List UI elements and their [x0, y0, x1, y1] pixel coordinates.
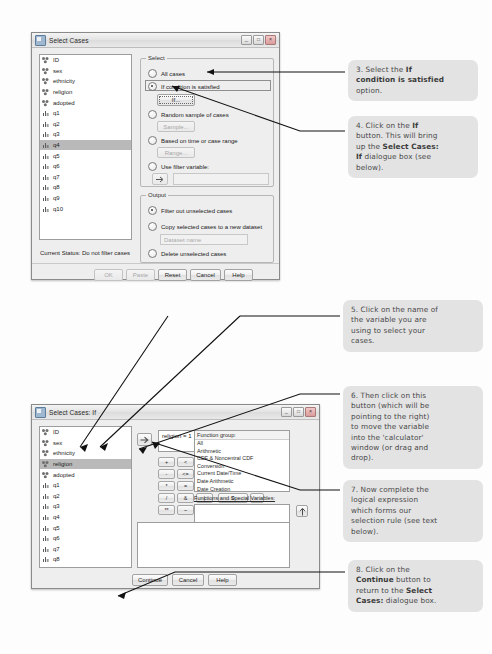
range-button[interactable]: Range... [157, 147, 195, 158]
variable-list-item[interactable]: q9 [40, 565, 131, 568]
variable-list-item[interactable]: q6 [40, 533, 131, 544]
nominal-variable-icon [42, 449, 50, 457]
radio-use-filter-variable[interactable]: Use filter variable: [148, 162, 209, 171]
dialog1-variable-list[interactable]: IDsexethnicityreligionadoptedq1q2q3q4q5q… [39, 54, 132, 240]
maximize-icon[interactable]: □ [293, 407, 304, 417]
radio-use-filter-variable-label: Use filter variable: [161, 164, 209, 170]
nominal-variable-icon [42, 99, 50, 107]
radio-delete-unselected[interactable]: Delete unselected cases [148, 249, 226, 258]
maximize-icon[interactable]: □ [253, 35, 264, 45]
radio-time-or-case-range[interactable]: Based on time or case range [148, 136, 238, 145]
help-button[interactable]: Help [224, 269, 253, 281]
key-not[interactable]: ~ [177, 505, 194, 515]
key-power[interactable]: ** [158, 505, 175, 515]
paste-button[interactable]: Paste [126, 269, 155, 281]
variable-list-item[interactable]: adopted [40, 469, 131, 480]
reset-button[interactable]: Reset [158, 269, 187, 281]
variable-list-item[interactable]: adopted [40, 97, 131, 108]
radio-indicator [148, 82, 157, 91]
move-variable-button[interactable] [137, 433, 152, 446]
radio-indicator [148, 110, 157, 119]
radio-filter-out-unselected-label: Filter out unselected cases [161, 208, 232, 214]
variable-list-item[interactable]: religion [40, 459, 131, 470]
close-icon[interactable]: × [265, 35, 276, 45]
close-icon[interactable]: × [305, 407, 316, 417]
variable-list-item[interactable]: q2 [40, 119, 131, 130]
function-group-list[interactable]: Function group: AllArithmeticCDF & Nonce… [194, 430, 290, 492]
variable-list-item[interactable]: q1 [40, 108, 131, 119]
radio-filter-out-unselected[interactable]: Filter out unselected cases [148, 206, 232, 215]
key-plus[interactable]: + [158, 457, 175, 467]
cancel-button[interactable]: Cancel [190, 269, 221, 281]
variable-list-item[interactable]: q2 [40, 491, 131, 502]
continue-button[interactable]: Continue [132, 574, 168, 586]
variable-list-item[interactable]: q3 [40, 129, 131, 140]
variable-name: q7 [53, 546, 60, 552]
function-group-item[interactable]: Arithmetic [195, 448, 289, 456]
sample-button[interactable]: Sample... [157, 121, 195, 132]
function-group-item[interactable]: CDF & Noncentral CDF [195, 455, 289, 463]
radio-if-condition[interactable]: If condition is satisfied [148, 82, 220, 91]
key-less-or-equal[interactable]: <= [177, 469, 194, 479]
minimize-icon[interactable]: _ [241, 35, 252, 45]
move-function-up-button[interactable] [296, 505, 308, 517]
key-and[interactable]: & [177, 493, 194, 503]
variable-list-item[interactable]: q7 [40, 544, 131, 555]
variable-name: q9 [53, 195, 60, 201]
radio-indicator [148, 206, 157, 215]
variable-list-item[interactable]: sex [40, 66, 131, 77]
function-group-item[interactable]: Conversion [195, 463, 289, 471]
scale-variable-icon [42, 162, 50, 170]
ok-button[interactable]: OK [94, 269, 123, 281]
variable-list-item[interactable]: q4 [40, 140, 131, 151]
variable-list-item[interactable]: religion [40, 87, 131, 98]
dialog2-titlebar[interactable]: Select Cases: If _ □ × [32, 405, 319, 420]
variable-list-item[interactable]: q8 [40, 182, 131, 193]
minimize-icon[interactable]: _ [281, 407, 292, 417]
key-multiply[interactable]: * [158, 481, 175, 491]
function-group-item[interactable]: All [195, 440, 289, 448]
radio-all-cases[interactable]: All cases [148, 69, 185, 78]
dialog1-window-controls[interactable]: _ □ × [241, 35, 276, 45]
key-divide[interactable]: / [158, 493, 175, 503]
variable-name: q4 [53, 514, 60, 520]
filter-variable-move-button[interactable] [152, 173, 168, 185]
function-group-item[interactable]: Date Creation [195, 486, 289, 492]
variable-name: q3 [53, 131, 60, 137]
variable-list-item[interactable]: ID [40, 55, 131, 66]
radio-copy-selected[interactable]: Copy selected cases to a new dataset [148, 222, 262, 231]
variable-list-item[interactable]: q8 [40, 554, 131, 565]
function-group-item[interactable]: Date Arithmetic [195, 478, 289, 486]
dialog1-titlebar[interactable]: Select Cases _ □ × [32, 33, 279, 48]
if-button[interactable]: If... [157, 94, 195, 106]
variable-list-item[interactable]: q7 [40, 172, 131, 183]
dialog2-variable-list[interactable]: IDsexethnicityreligionadoptedq1q2q3q4q5q… [39, 426, 132, 568]
help-button[interactable]: Help [208, 574, 237, 586]
select-cases-if-dialog: Select Cases: If _ □ × IDsexethnicityrel… [31, 404, 320, 589]
variable-list-item[interactable]: q10 [40, 203, 131, 214]
variable-list-item[interactable]: sex [40, 438, 131, 449]
variable-list-item[interactable]: ID [40, 427, 131, 438]
key-minus[interactable]: - [158, 469, 175, 479]
variable-list-item[interactable]: ethnicity [40, 76, 131, 87]
variable-list-item[interactable]: ethnicity [40, 448, 131, 459]
key-equals[interactable]: = [177, 481, 194, 491]
variable-name: q1 [53, 482, 60, 488]
dataset-name-input[interactable]: Dataset name [160, 234, 248, 245]
cancel-button[interactable]: Cancel [172, 574, 204, 586]
variable-list-item[interactable]: q1 [40, 480, 131, 491]
key-less-than[interactable]: < [177, 457, 194, 467]
filter-variable-input[interactable] [173, 173, 269, 185]
function-group-item[interactable]: Current Date/Time [195, 470, 289, 478]
dialog2-window-controls[interactable]: _ □ × [281, 407, 316, 417]
radio-copy-selected-label: Copy selected cases to a new dataset [161, 224, 262, 230]
variable-list-item[interactable]: q4 [40, 512, 131, 523]
expression-description-area [137, 522, 290, 568]
variable-list-item[interactable]: q9 [40, 193, 131, 204]
variable-list-item[interactable]: q6 [40, 161, 131, 172]
variable-list-item[interactable]: q3 [40, 501, 131, 512]
variable-list-item[interactable]: q5 [40, 150, 131, 161]
scale-variable-icon [42, 194, 50, 202]
variable-list-item[interactable]: q5 [40, 522, 131, 533]
radio-random-sample[interactable]: Random sample of cases [148, 110, 229, 119]
